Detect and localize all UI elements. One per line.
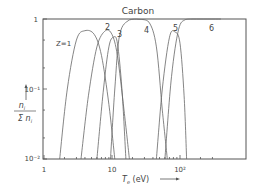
plot-frame	[43, 19, 246, 159]
curve-z6	[165, 19, 221, 159]
x-axis-label: Te (eV)	[122, 175, 149, 185]
curve-z1	[60, 30, 115, 159]
y-axis-label-numerator: ni	[19, 101, 26, 111]
curves	[60, 19, 221, 159]
y-tick-label-0.01: 10⁻²	[25, 155, 41, 163]
curve-label-z4: 4	[144, 26, 149, 35]
y-axis-label-denominator: Σ ni	[18, 114, 33, 124]
curve-z4	[111, 19, 168, 159]
curve-label-z6: 6	[209, 24, 214, 33]
x-tick-label-10: 10	[108, 166, 117, 174]
curve-label-z3: 3	[117, 30, 122, 39]
curve-label-z1: Z=1	[56, 40, 71, 48]
curve-label-z5: 5	[173, 24, 178, 33]
x-axis-arrowhead	[176, 178, 180, 181]
x-tick-label-100: 10²	[174, 166, 186, 174]
curve-label-z2: 2	[105, 23, 110, 32]
ionization-chart: Carbon Z=1 2 3 4 5 6 1 10⁻¹ 10⁻² ni Σ ni…	[0, 0, 257, 192]
chart-title: Carbon	[122, 6, 154, 16]
y-tick-label-1: 1	[34, 16, 38, 24]
x-tick-label-1: 1	[42, 166, 46, 174]
